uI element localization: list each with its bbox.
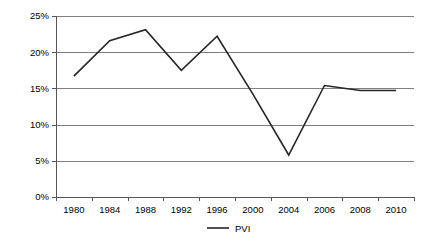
y-tick-label: 10% — [30, 119, 50, 130]
y-tick-label: 0% — [35, 191, 49, 202]
legend-label-pvi: PVI — [235, 223, 250, 234]
chart-canvas: 0%5%10%15%20%25% 19801984198819921996200… — [0, 0, 429, 247]
x-tick-label: 2008 — [350, 204, 371, 215]
y-tick-label: 25% — [30, 10, 50, 21]
x-tick-label: 1984 — [99, 204, 120, 215]
x-tick-label: 2006 — [314, 204, 335, 215]
x-tick-label: 1992 — [171, 204, 192, 215]
x-tick-label: 1996 — [207, 204, 228, 215]
x-tick-label: 2010 — [386, 204, 407, 215]
y-tick-label: 5% — [35, 155, 49, 166]
x-tick-label: 1980 — [63, 204, 84, 215]
x-tick-label: 2004 — [278, 204, 299, 215]
line-chart: 0%5%10%15%20%25% 19801984198819921996200… — [0, 0, 429, 247]
x-tick-label: 2000 — [242, 204, 263, 215]
y-tick-label: 15% — [30, 83, 50, 94]
y-tick-label: 20% — [30, 47, 50, 58]
x-tick-label: 1988 — [135, 204, 156, 215]
